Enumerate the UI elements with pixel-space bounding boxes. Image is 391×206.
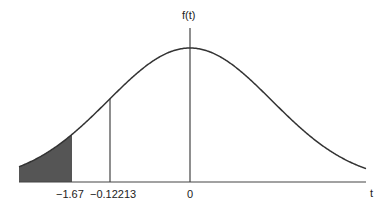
- x-axis-label: t: [370, 188, 373, 199]
- y-axis-label: f(t): [182, 10, 195, 21]
- tick-label-zero: 0: [187, 189, 193, 200]
- density-chart: [0, 0, 391, 206]
- tick-label-shade: −1.67: [56, 189, 84, 200]
- tick-label-reference: −0.12213: [90, 189, 136, 200]
